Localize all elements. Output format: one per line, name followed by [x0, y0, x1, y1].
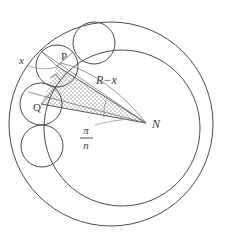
label-n-denominator: n	[83, 139, 89, 151]
outer-circle	[9, 22, 213, 226]
segment-radius-x	[42, 52, 73, 66]
label-x: x	[18, 54, 24, 66]
label-p: P	[61, 50, 67, 62]
label-n: N	[151, 117, 161, 131]
small-circle-bottom	[21, 125, 63, 167]
label-pi-over-n: π n	[80, 124, 93, 151]
geometry-figure: x P Q R−x N π n	[0, 0, 233, 240]
leader-line-angle	[95, 119, 130, 125]
label-pi: π	[83, 124, 89, 136]
label-q: Q	[33, 101, 41, 113]
diagram-canvas: x P Q R−x N π n	[0, 0, 233, 240]
leader-line-x	[28, 66, 57, 69]
small-circle-top	[73, 22, 115, 64]
label-r-minus-x: R−x	[95, 73, 117, 87]
